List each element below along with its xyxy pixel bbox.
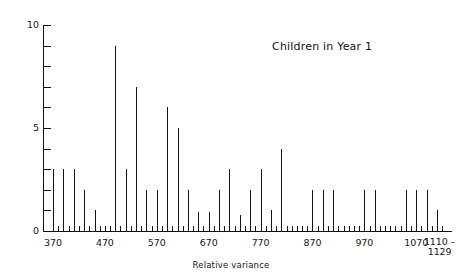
y-axis-tick-label: 10 — [7, 19, 39, 30]
x-axis-tick-label: 670 — [187, 237, 231, 248]
x-axis-tick-label: 570 — [135, 237, 179, 248]
x-axis-tick-label: 470 — [83, 237, 127, 248]
chart-bars — [54, 46, 438, 231]
x-axis-title: Relative variance — [0, 260, 462, 270]
chart-axes — [43, 25, 452, 232]
chart-title: Children in Year 1 — [272, 40, 372, 53]
y-axis-tick-label: 0 — [7, 225, 39, 236]
x-axis-tick-label: 970 — [342, 237, 386, 248]
x-axis-tick-label: 770 — [239, 237, 283, 248]
x-axis-tick-label: 870 — [290, 237, 334, 248]
chart-container: 051037047057067077087097010701110 –1129 … — [0, 0, 462, 279]
y-axis-tick-label: 5 — [7, 122, 39, 133]
x-axis-tick-label: 1110 –1129 — [418, 237, 462, 257]
x-axis-tick-label: 370 — [31, 237, 75, 248]
